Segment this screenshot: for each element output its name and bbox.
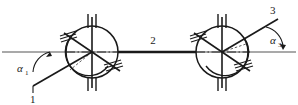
label-intermediate-shaft-2: 2 <box>150 34 156 46</box>
label-angle-alpha3: α <box>270 34 276 46</box>
label-angle-alpha1-subscript: 1 <box>25 69 29 77</box>
left-joint-yoke-arc <box>65 38 108 76</box>
input-shaft-1-line <box>33 52 92 86</box>
label-output-shaft-3: 3 <box>270 4 276 16</box>
label-input-shaft-1: 1 <box>30 93 36 105</box>
diagram-canvas: 1 2 3 α 1 α 3 <box>0 0 298 105</box>
label-angle-alpha1: α <box>17 62 23 74</box>
right-joint-yoke-arc <box>206 38 249 76</box>
label-angle-alpha3-subscript: 3 <box>278 41 282 49</box>
universal-joint-diagram: 1 2 3 α 1 α 3 <box>0 0 298 105</box>
angle-arc-alpha1 <box>33 52 50 72</box>
